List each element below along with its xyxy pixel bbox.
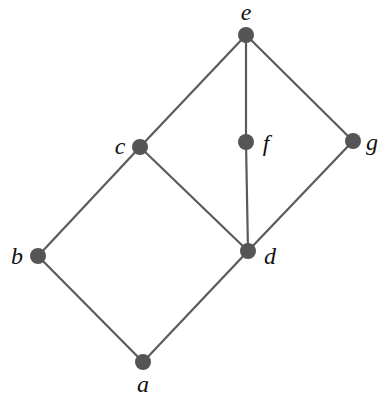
- edge-b-c: [38, 147, 140, 256]
- edge-a-d: [143, 251, 248, 362]
- edge-a-b: [38, 256, 143, 362]
- node-label-g: g: [366, 129, 378, 155]
- node-b: [30, 248, 46, 264]
- hasse-diagram: abcdefg: [0, 0, 378, 404]
- node-c: [132, 139, 148, 155]
- edge-c-d: [140, 147, 248, 251]
- node-label-e: e: [241, 0, 252, 25]
- node-label-a: a: [137, 371, 149, 397]
- edge-d-f: [246, 142, 248, 251]
- node-a: [135, 354, 151, 370]
- node-d: [240, 243, 256, 259]
- edge-d-g: [248, 141, 353, 251]
- node-e: [238, 27, 254, 43]
- node-label-b: b: [11, 243, 23, 269]
- edges: [38, 35, 353, 362]
- edge-g-e: [246, 35, 353, 141]
- node-g: [345, 133, 361, 149]
- node-label-c: c: [115, 133, 126, 159]
- node-f: [238, 134, 254, 150]
- nodes: [30, 27, 361, 370]
- node-label-f: f: [263, 130, 273, 156]
- node-label-d: d: [264, 243, 277, 269]
- edge-c-e: [140, 35, 246, 147]
